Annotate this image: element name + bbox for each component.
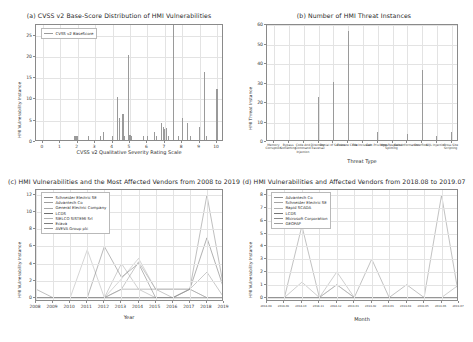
panel-c-ytick-label: 8 (29, 226, 32, 231)
panel-d-xtick-label: 2019-07 (452, 304, 463, 308)
panel-d-xtick-label: 2018-09 (278, 304, 289, 308)
gridline-y (267, 234, 457, 235)
panel-c-ytick-mark (33, 211, 35, 212)
panel-d-xtick-mark (388, 301, 389, 303)
bar (436, 136, 437, 140)
bar (216, 89, 217, 140)
gridline-y (36, 264, 222, 265)
panel-a: (a) CVSS v2 Base-Score Distribution of H… (8, 10, 230, 170)
bar (333, 82, 334, 141)
panel-a-ytick-label: 20 (26, 53, 32, 58)
legend-line-swatch (44, 208, 53, 209)
gridline-x (43, 25, 44, 140)
panel-c-xtick-mark (155, 301, 156, 303)
figure-canvas: (a) CVSS v2 Base-Score Distribution of H… (0, 0, 473, 342)
panel-d-ytick-mark (264, 297, 266, 298)
gridline-y (267, 298, 457, 299)
panel-a-xtick-label: 7 (162, 144, 165, 149)
gridline-x (267, 190, 268, 300)
gridline-x (424, 190, 425, 300)
gridline-y (36, 78, 222, 79)
gridline-y (267, 123, 457, 124)
panel-d-ytick-label: 5 (260, 230, 263, 235)
gridline-y (36, 121, 222, 122)
legend-item-label: AVEVA Group plc (56, 226, 89, 231)
bar (178, 136, 179, 140)
panel-a-xtick-mark (164, 141, 165, 143)
gridline-x (36, 190, 37, 300)
bar (190, 136, 191, 140)
legend-line-swatch (274, 208, 283, 209)
legend-swatch (44, 33, 53, 35)
panel-b-xtick-mark (451, 141, 452, 143)
panel-d-xtick-label: 2019-04 (400, 304, 411, 308)
panel-a-xtick-label: 10 (213, 144, 219, 149)
panel-a-ytick-label: 15 (26, 75, 32, 80)
legend-line-swatch (274, 213, 283, 214)
panel-d-xtick-label: 2019-01 (348, 304, 359, 308)
bar (147, 136, 148, 140)
panel-d-ytick-label: 3 (260, 256, 263, 261)
panel-b-xtick-label: Cross Site Scripting (438, 144, 464, 151)
panel-a-xtick-mark (146, 141, 147, 143)
panel-d-ytick-mark (264, 284, 266, 285)
bar (348, 31, 349, 140)
panel-a-ytick-mark (33, 98, 35, 99)
gridline-y (36, 99, 222, 100)
panel-a-xtick-label: 0 (41, 144, 44, 149)
gridline-x (173, 190, 174, 300)
panel-a-xtick-label: 4 (110, 144, 113, 149)
legend-item: GEOFAP (274, 221, 327, 226)
panel-c-ytick-mark (33, 228, 35, 229)
panel-b-ytick-label: 10 (257, 119, 263, 124)
legend-line-swatch (44, 218, 53, 219)
legend-line-swatch (274, 197, 283, 198)
panel-d-xtick-label: 2018-08 (260, 304, 271, 308)
panel-d-xtick-label: 2018-12 (330, 304, 341, 308)
panel-c-ytick-label: 4 (29, 260, 32, 265)
bar (168, 136, 169, 140)
panel-b-xtick-mark (377, 141, 378, 143)
legend-line-swatch (44, 223, 53, 224)
gridline-y (36, 281, 222, 282)
panel-d-ytick-mark (264, 207, 266, 208)
legend-line-swatch (44, 202, 53, 203)
panel-d-xtick-label: 2019-03 (383, 304, 394, 308)
panel-b-ytick-mark (264, 141, 266, 142)
legend-line-swatch (274, 223, 283, 224)
gridline-y (267, 259, 457, 260)
panel-c-xtick-label: 2008 (29, 304, 40, 309)
gridline-y (267, 285, 457, 286)
panel-b-xtick-mark (362, 141, 363, 143)
panel-b-xtick-mark (421, 141, 422, 143)
panel-c-xtick-mark (189, 301, 190, 303)
panel-c-xtick-mark (172, 301, 173, 303)
panel-a-xtick-mark (77, 141, 78, 143)
panel-d-xtick-mark (458, 301, 459, 303)
panel-b-plot-area (266, 24, 458, 141)
panel-d-xtick-label: 2019-05 (417, 304, 428, 308)
panel-a-ytick-mark (33, 77, 35, 78)
panel-a-title: (a) CVSS v2 Base-Score Distribution of H… (8, 12, 230, 19)
panel-b-ytick-label: 20 (257, 100, 263, 105)
gridline-x (337, 190, 338, 300)
panel-d-xtick-label: 2018-10 (295, 304, 306, 308)
panel-a-xtick-label: 5 (128, 144, 131, 149)
gridline-x (372, 190, 373, 300)
legend-item: CVSS v2 BaseScore (44, 31, 93, 36)
panel-d-ytick-mark (264, 245, 266, 246)
panel-d-xtick-mark (336, 301, 337, 303)
gridline-y (267, 45, 457, 46)
bar (124, 136, 125, 140)
panel-d-xtick-label: 2019-02 (365, 304, 376, 308)
gridline-y (267, 64, 457, 65)
panel-a-xtick-label: 8 (180, 144, 183, 149)
panel-a-ytick-label: 25 (26, 32, 32, 37)
panel-d-ytick-label: 2 (260, 268, 263, 273)
panel-d-ytick-label: 4 (260, 243, 263, 248)
panel-b-xtick-mark (288, 141, 289, 143)
bar (112, 136, 113, 140)
bar (187, 123, 188, 140)
panel-a-xtick-label: 2 (75, 144, 78, 149)
panel-c-xtick-label: 2010 (64, 304, 75, 309)
